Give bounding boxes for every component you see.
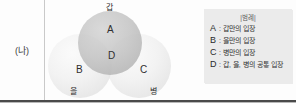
legend-title: |범례| bbox=[204, 12, 292, 22]
venn-outer-label-gap: 갑 bbox=[106, 1, 113, 12]
legend-item-description: 갑만의 입장 bbox=[223, 23, 255, 33]
venn-region-label-c: C bbox=[140, 64, 147, 75]
legend-item-a: A : 갑만의 입장 bbox=[210, 23, 292, 35]
venn-diagram: A B C D 갑 을 병 bbox=[45, 0, 195, 101]
legend-item-key: A bbox=[210, 23, 219, 33]
row-label-text: (나) bbox=[15, 44, 29, 57]
legend-item-b: B : 을만의 입장 bbox=[210, 35, 292, 47]
legend-item-description: 갑, 을, 병의 공통 입장 bbox=[223, 59, 283, 69]
venn-outer-label-byeong: 병 bbox=[150, 85, 157, 96]
legend-item-c: C : 병만의 입장 bbox=[210, 47, 292, 59]
legend-item-key: D bbox=[210, 59, 219, 69]
venn-outer-label-eul: 을 bbox=[70, 85, 77, 96]
legend-item-key: C bbox=[210, 47, 219, 57]
legend-item-description: 병만의 입장 bbox=[223, 47, 255, 57]
row-label-cell: (나) bbox=[0, 0, 44, 101]
venn-region-label-a: A bbox=[107, 24, 114, 35]
legend-panel: |범례| A : 갑만의 입장 B : 을만의 입장 C : 병만의 입장 bbox=[204, 9, 292, 83]
table-bottom-rule-secondary bbox=[0, 102, 296, 103]
screenshot-root: (나) A B C D 갑 을 병 |범례| A : 갑만의 입장 bbox=[0, 0, 296, 108]
venn-region-label-b: B bbox=[76, 64, 83, 75]
legend-item-key: B bbox=[210, 35, 219, 45]
venn-circle-gap bbox=[78, 11, 142, 75]
legend-item-d: D : 갑, 을, 병의 공통 입장 bbox=[210, 59, 292, 71]
venn-region-label-d: D bbox=[108, 50, 115, 61]
legend-list: A : 갑만의 입장 B : 을만의 입장 C : 병만의 입장 D : bbox=[210, 23, 292, 71]
legend-item-description: 을만의 입장 bbox=[223, 35, 255, 45]
table-row-frame: (나) A B C D 갑 을 병 |범례| A : 갑만의 입장 bbox=[0, 0, 296, 101]
